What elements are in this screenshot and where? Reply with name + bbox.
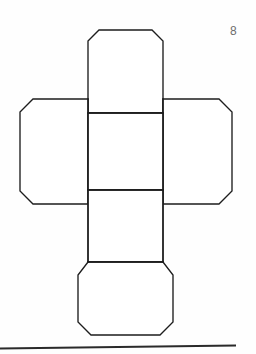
net-panel-left bbox=[20, 99, 88, 204]
cube-net-diagram bbox=[0, 0, 256, 354]
net-panel-stem bbox=[88, 190, 163, 262]
net-panel-bottom bbox=[78, 262, 173, 335]
net-panel-center bbox=[88, 113, 163, 190]
figure-page: 8 bbox=[0, 0, 256, 354]
net-panel-right bbox=[163, 99, 232, 204]
figure-number-label: 8 bbox=[230, 24, 250, 38]
page-bottom-rule bbox=[0, 346, 236, 349]
net-panel-top bbox=[88, 30, 163, 113]
